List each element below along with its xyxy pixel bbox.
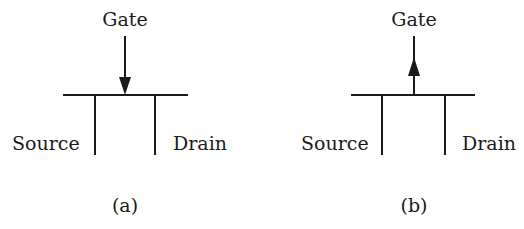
arrow-up-icon — [408, 57, 420, 76]
caption-b: (b) — [401, 194, 428, 216]
source-label: Source — [12, 132, 80, 154]
caption-a: (a) — [112, 194, 138, 216]
source-label: Source — [301, 132, 369, 154]
drain-label: Drain — [173, 132, 227, 154]
arrow-down-icon — [119, 77, 131, 95]
gate-label: Gate — [102, 8, 147, 30]
panel-a: Gate Source Drain (a) — [12, 8, 227, 216]
drain-label: Drain — [462, 132, 516, 154]
fet-diagram: Gate Source Drain (a) Gate Source Drain … — [0, 0, 524, 229]
panel-b: Gate Source Drain (b) — [301, 8, 516, 216]
gate-label: Gate — [391, 8, 436, 30]
